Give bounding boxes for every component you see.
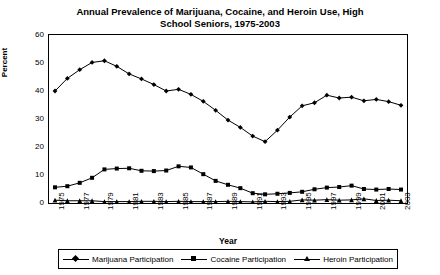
series-layer — [49, 35, 407, 203]
data-point — [374, 188, 378, 192]
data-point — [374, 97, 379, 102]
legend-label: Heroin Participation — [323, 255, 393, 264]
data-point — [399, 103, 404, 108]
data-point — [362, 98, 367, 103]
data-point — [164, 89, 169, 94]
legend-marker-diamond-icon — [63, 255, 89, 264]
data-point — [102, 58, 107, 63]
legend-label: Marijuana Participation — [92, 255, 173, 264]
x-tick-label: 1987 — [206, 192, 214, 210]
x-tick-label: 1975 — [58, 192, 66, 210]
data-point — [362, 187, 366, 191]
data-point — [177, 164, 181, 168]
chart-title: Annual Prevalence of Marijuana, Cocaine,… — [40, 6, 400, 30]
data-point — [399, 188, 403, 192]
chart-title-line-1: Annual Prevalence of Marijuana, Cocaine,… — [76, 6, 363, 17]
legend-item[interactable]: Cocaine Participation — [181, 255, 286, 264]
x-tick-label: 1989 — [231, 192, 239, 210]
x-tick-label: 2001 — [379, 192, 387, 210]
data-point — [349, 95, 354, 100]
data-point — [114, 64, 119, 69]
series-line — [55, 166, 401, 194]
data-point — [387, 187, 391, 191]
data-point — [288, 191, 292, 195]
data-point — [324, 93, 329, 98]
x-axis-label: Year — [48, 236, 408, 246]
y-axis-label: Percent — [0, 33, 9, 93]
data-point — [325, 186, 329, 190]
x-tick-label: 1991 — [256, 192, 264, 210]
data-point — [189, 165, 193, 169]
y-tick-label: 10 — [22, 171, 44, 179]
x-tick-label: 1983 — [157, 192, 165, 210]
data-point — [90, 176, 94, 180]
data-point — [313, 187, 317, 191]
data-point — [139, 77, 144, 82]
y-tick-label: 40 — [22, 87, 44, 95]
data-point — [65, 184, 69, 188]
data-point — [226, 183, 230, 187]
y-tick-label: 50 — [22, 59, 44, 67]
series-line — [55, 61, 401, 142]
data-point — [350, 184, 354, 188]
legend-item[interactable]: Marijuana Participation — [63, 255, 173, 264]
data-point — [53, 185, 57, 189]
data-point — [140, 169, 144, 173]
data-point — [127, 72, 132, 77]
x-axis-ticks: 1975197719791981198319851987198919911993… — [48, 208, 408, 238]
x-tick-label: 1979 — [107, 192, 115, 210]
data-point — [152, 169, 156, 173]
data-point — [164, 169, 168, 173]
data-point — [337, 185, 341, 189]
legend-item[interactable]: Heroin Participation — [294, 255, 393, 264]
x-tick-label: 1997 — [330, 192, 338, 210]
legend-label: Cocaine Participation — [210, 255, 286, 264]
x-tick-label: 1993 — [280, 192, 288, 210]
x-tick-label: 2003 — [404, 192, 412, 210]
legend-marker-square-icon — [181, 255, 207, 264]
y-tick-label: 0 — [22, 199, 44, 207]
chart-title-line-2: School Seniors, 1975-2003 — [160, 18, 280, 29]
x-tick-label: 1977 — [83, 192, 91, 210]
chart-container: Annual Prevalence of Marijuana, Cocaine,… — [0, 0, 440, 275]
data-point — [312, 100, 317, 105]
data-point — [176, 87, 181, 92]
data-point — [102, 167, 106, 171]
x-tick-label: 1995 — [305, 192, 313, 210]
data-point — [90, 60, 95, 65]
y-tick-label: 20 — [22, 143, 44, 151]
data-point — [151, 82, 156, 87]
data-point — [238, 186, 242, 190]
y-tick-label: 30 — [22, 115, 44, 123]
series-diamond — [53, 58, 404, 144]
data-point — [78, 181, 82, 185]
data-point — [115, 167, 119, 171]
legend-marker-triangle-icon — [294, 255, 320, 264]
data-point — [214, 179, 218, 183]
data-point — [201, 172, 205, 176]
x-tick-label: 1981 — [132, 192, 140, 210]
x-tick-label: 1985 — [182, 192, 190, 210]
data-point — [189, 92, 194, 97]
chart-legend: Marijuana ParticipationCocaine Participa… — [58, 249, 398, 269]
y-axis-ticks: 0102030405060 — [18, 34, 44, 204]
data-point — [337, 96, 342, 101]
plot-area — [48, 34, 408, 204]
x-tick-label: 1999 — [355, 192, 363, 210]
y-tick-label: 60 — [22, 31, 44, 39]
data-point — [386, 99, 391, 104]
data-point — [127, 166, 131, 170]
